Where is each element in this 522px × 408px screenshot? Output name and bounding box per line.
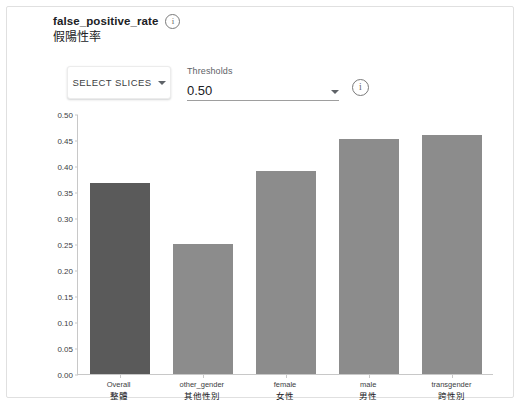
- y-axis-tick-mark: [75, 271, 78, 272]
- metric-title-translation: 假陽性率: [53, 29, 180, 45]
- x-axis-labels: Overall整體other_gender其他性別female女性male男性t…: [77, 379, 493, 403]
- y-axis-tick-mark: [75, 115, 78, 116]
- y-axis-tick-label: 0.50: [57, 111, 73, 120]
- y-axis-tick-mark: [75, 141, 78, 142]
- x-axis-label-cn: 跨性別: [410, 390, 493, 403]
- bar[interactable]: [422, 135, 482, 374]
- y-axis-tick-mark: [75, 323, 78, 324]
- y-axis-tick-label: 0.10: [57, 319, 73, 328]
- y-axis-tick-label: 0.00: [57, 371, 73, 380]
- metric-title-row: false_positive_rate: [53, 13, 180, 30]
- metric-card: false_positive_rate 假陽性率 SELECT SLICES T…: [6, 6, 514, 398]
- x-axis-label-en: other_gender: [160, 379, 243, 390]
- y-axis-tick-label: 0.35: [57, 189, 73, 198]
- x-axis-label-cn: 其他性別: [160, 390, 243, 403]
- bar[interactable]: [173, 244, 233, 374]
- x-axis-label: other_gender其他性別: [160, 379, 243, 403]
- select-slices-button[interactable]: SELECT SLICES: [67, 66, 171, 99]
- bar-slot: [78, 115, 161, 374]
- bar-slot: [244, 115, 327, 374]
- plot-area: 0.000.050.100.150.200.250.300.350.400.45…: [77, 115, 493, 375]
- page-title: false_positive_rate: [53, 13, 158, 30]
- bar-slot: [410, 115, 493, 374]
- chevron-down-icon: [331, 90, 339, 94]
- y-axis-tick-label: 0.30: [57, 215, 73, 224]
- y-axis-tick-mark: [75, 193, 78, 194]
- x-axis-label: transgender跨性別: [410, 379, 493, 403]
- select-slices-label: SELECT SLICES: [72, 77, 151, 88]
- y-axis-tick-label: 0.15: [57, 293, 73, 302]
- y-axis-tick-mark: [75, 219, 78, 220]
- y-axis-tick-mark: [75, 245, 78, 246]
- bar-slot: [161, 115, 244, 374]
- y-axis-tick-label: 0.05: [57, 345, 73, 354]
- x-axis-label-cn: 女性: [243, 390, 326, 403]
- x-axis-tick-mark: [203, 374, 204, 378]
- x-axis-tick-mark: [286, 374, 287, 378]
- bar-slot: [327, 115, 410, 374]
- chart-controls: SELECT SLICES Thresholds 0.50: [67, 66, 369, 101]
- y-axis-tick-label: 0.40: [57, 163, 73, 172]
- x-axis-tick-mark: [120, 374, 121, 378]
- chevron-down-icon: [158, 81, 166, 85]
- bar[interactable]: [256, 171, 316, 374]
- x-axis-label: Overall整體: [77, 379, 160, 403]
- thresholds-field[interactable]: 0.50: [187, 79, 339, 101]
- y-axis-tick-mark: [75, 349, 78, 350]
- info-circle-icon[interactable]: [165, 14, 180, 29]
- x-axis-tick-mark: [369, 374, 370, 378]
- x-axis-tick-mark: [452, 374, 453, 378]
- thresholds-label: Thresholds: [187, 66, 339, 77]
- x-axis-label-cn: 整體: [77, 390, 160, 403]
- bar-series: [78, 115, 493, 374]
- y-axis-tick-mark: [75, 167, 78, 168]
- thresholds-info-circle-icon[interactable]: [352, 79, 369, 96]
- x-axis-label: female女性: [243, 379, 326, 403]
- x-axis-label-en: transgender: [410, 379, 493, 390]
- thresholds-value: 0.50: [187, 83, 212, 99]
- y-axis-tick-mark: [75, 375, 78, 376]
- bar[interactable]: [339, 139, 399, 374]
- y-axis-tick-label: 0.25: [57, 241, 73, 250]
- y-axis-tick-label: 0.45: [57, 137, 73, 146]
- bar[interactable]: [90, 183, 150, 374]
- y-axis-tick-label: 0.20: [57, 267, 73, 276]
- bar-chart: 0.000.050.100.150.200.250.300.350.400.45…: [33, 107, 503, 399]
- x-axis-label-cn: 男性: [327, 390, 410, 403]
- x-axis-label-en: male: [327, 379, 410, 390]
- x-axis-label-en: female: [243, 379, 326, 390]
- y-axis-tick-mark: [75, 297, 78, 298]
- thresholds-select[interactable]: Thresholds 0.50: [187, 66, 339, 101]
- x-axis-label-en: Overall: [77, 379, 160, 390]
- chart-header: false_positive_rate 假陽性率: [53, 13, 180, 45]
- x-axis-label: male男性: [327, 379, 410, 403]
